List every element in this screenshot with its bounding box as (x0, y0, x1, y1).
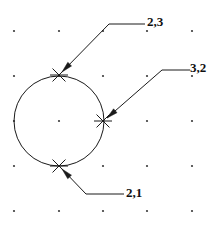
grid-dot (102, 75, 104, 77)
point-label-2-3: 2,3 (147, 15, 163, 28)
leader-3-2 (107, 70, 190, 118)
grid-dot (146, 120, 148, 122)
point-label-3-2: 3,2 (190, 61, 206, 74)
diagram-canvas: 2,33,22,1 (0, 0, 219, 229)
grid-dot (146, 30, 148, 32)
grid-dot (191, 165, 193, 167)
grid-dot (58, 120, 60, 122)
grid-dot (191, 30, 193, 32)
grid-dot (146, 75, 148, 77)
grid-dot (146, 210, 148, 212)
grid-dot (191, 210, 193, 212)
grid-dot (191, 120, 193, 122)
grid-dot (146, 165, 148, 167)
leader-polyline (62, 169, 124, 194)
diagram-svg (0, 0, 219, 229)
grid-dot (13, 210, 15, 212)
point-label-2-1: 2,1 (126, 186, 142, 199)
point-marker-2-3 (50, 69, 68, 82)
grid-dot (13, 75, 15, 77)
point-marker-2-1 (50, 160, 68, 173)
leader-2-1 (62, 169, 124, 194)
grid-dot (13, 165, 15, 167)
grid-dot (102, 165, 104, 167)
grid-dot (58, 30, 60, 32)
leader-polyline (107, 70, 190, 118)
annotation-leader-layer (62, 24, 190, 194)
grid-dot (13, 30, 15, 32)
grid-dot (191, 75, 193, 77)
grid-dot (58, 210, 60, 212)
grid-dot (102, 210, 104, 212)
